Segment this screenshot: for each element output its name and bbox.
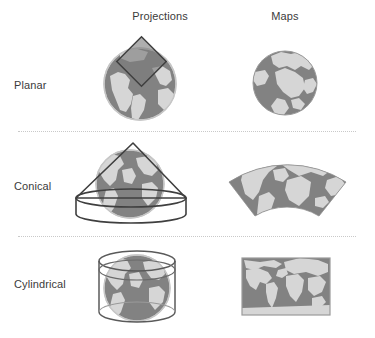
cell-cylindrical-projection	[85, 246, 195, 330]
cell-cylindrical-map	[230, 250, 345, 324]
cell-conical-projection	[60, 136, 200, 230]
cell-planar-projection	[100, 38, 196, 128]
row-divider	[18, 236, 356, 237]
map-projections-figure: Projections Maps Planar Conical Cylindri…	[0, 0, 375, 338]
cell-planar-map	[225, 38, 345, 128]
rectangular-world-map-icon	[242, 258, 330, 315]
row-divider	[18, 131, 356, 132]
row-label-planar: Planar	[14, 79, 46, 91]
column-header-projections: Projections	[90, 10, 230, 22]
globe-with-tangent-plane-icon	[104, 37, 176, 120]
row-label-cylindrical: Cylindrical	[14, 278, 66, 290]
polar-azimuthal-map-icon	[253, 51, 317, 116]
cell-conical-map	[215, 140, 360, 228]
row-label-conical: Conical	[14, 180, 51, 192]
globe-with-cylinder-icon	[99, 251, 175, 322]
column-header-maps: Maps	[215, 10, 355, 22]
conic-fan-map-icon	[229, 148, 346, 220]
globe-with-cone-icon	[76, 143, 186, 223]
